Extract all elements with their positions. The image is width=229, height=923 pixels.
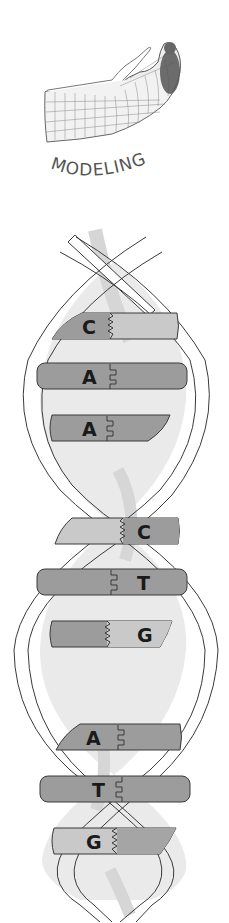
dna-helix: C A A C T G xyxy=(14,230,218,922)
svg-text:A: A xyxy=(82,418,97,440)
wireframe-hand-icon xyxy=(45,42,181,142)
base-pair-C-G: G xyxy=(50,621,172,647)
base-pair-A-T: A xyxy=(37,363,187,389)
svg-text:A: A xyxy=(86,727,101,749)
svg-text:MODELING: MODELING xyxy=(49,148,149,180)
svg-text:G: G xyxy=(86,831,102,853)
svg-text:T: T xyxy=(137,572,150,594)
svg-text:A: A xyxy=(82,366,97,388)
base-pair-A-T: T xyxy=(37,569,187,595)
svg-text:C: C xyxy=(82,316,96,338)
base-pair-G-C: C xyxy=(55,518,180,544)
svg-text:G: G xyxy=(137,624,153,646)
dna-diagram: MODELING C xyxy=(0,0,229,923)
base-pair-T-A: T xyxy=(40,776,190,802)
svg-text:T: T xyxy=(92,779,105,801)
base-pair-A-T: A xyxy=(50,415,170,441)
modeling-title: MODELING xyxy=(49,140,190,180)
base-pair-G-C: G xyxy=(52,828,176,854)
svg-text:C: C xyxy=(137,521,151,543)
base-pair-A-T: A xyxy=(56,724,182,750)
